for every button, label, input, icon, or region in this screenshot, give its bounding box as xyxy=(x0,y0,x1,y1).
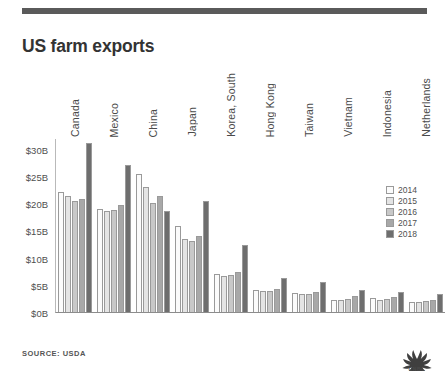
legend-item[interactable]: 2014 xyxy=(386,186,444,195)
bar-group xyxy=(214,139,249,312)
legend-label: 2018 xyxy=(398,230,417,239)
bar xyxy=(72,201,78,312)
legend-swatch xyxy=(386,197,394,205)
bar xyxy=(150,203,156,312)
legend-swatch xyxy=(386,230,394,238)
bar xyxy=(175,226,181,312)
bar xyxy=(203,201,209,312)
bar xyxy=(189,241,195,312)
bar xyxy=(65,196,71,312)
top-rule xyxy=(22,8,427,14)
legend-label: 2016 xyxy=(398,208,417,217)
y-axis-tick: $25B xyxy=(26,172,48,183)
bar xyxy=(299,294,305,312)
bar xyxy=(235,272,241,312)
source-note: SOURCE: USDA xyxy=(22,349,86,358)
bar xyxy=(118,205,124,312)
y-axis-tick: $0B xyxy=(31,308,48,319)
bar xyxy=(377,300,383,313)
legend-item[interactable]: 2015 xyxy=(386,197,444,206)
category-label: Canada xyxy=(69,99,81,137)
category-label: Hong Kong xyxy=(264,83,276,137)
bar xyxy=(164,211,170,312)
y-axis: $0B$5B$10B$15B$20B$25B$30B xyxy=(0,139,52,313)
y-axis-tick: $15B xyxy=(26,226,48,237)
bar xyxy=(437,294,443,312)
bar xyxy=(352,296,358,312)
bar xyxy=(136,174,142,312)
bar xyxy=(345,299,351,312)
bar-group xyxy=(58,139,93,312)
bar xyxy=(416,302,422,312)
legend-swatch xyxy=(386,208,394,216)
y-axis-tick: $5B xyxy=(31,280,48,291)
bar xyxy=(384,299,390,312)
bar xyxy=(182,239,188,312)
bar-group xyxy=(175,139,210,312)
bar xyxy=(97,209,103,312)
category-label: Taiwan xyxy=(303,103,315,137)
bar xyxy=(306,294,312,312)
category-label: Japan xyxy=(186,107,198,137)
bar xyxy=(157,196,163,312)
category-label: Indonesia xyxy=(381,90,393,137)
bar xyxy=(359,290,365,312)
bar xyxy=(370,298,376,312)
bar xyxy=(242,245,248,312)
bar xyxy=(143,187,149,312)
bar xyxy=(292,293,298,312)
legend-label: 2015 xyxy=(398,197,417,206)
legend-item[interactable]: 2017 xyxy=(386,219,444,228)
legend-label: 2017 xyxy=(398,219,417,228)
bar xyxy=(391,297,397,312)
bar-group xyxy=(136,139,171,312)
bar-group xyxy=(331,139,366,312)
bar xyxy=(111,210,117,312)
legend-swatch xyxy=(386,186,394,194)
bar xyxy=(125,165,131,312)
bar xyxy=(196,236,202,312)
bar xyxy=(267,291,273,312)
bar xyxy=(281,278,287,312)
bar xyxy=(86,143,92,312)
bar xyxy=(398,292,404,312)
bar-group xyxy=(292,139,327,312)
bar xyxy=(338,300,344,313)
chart-container: Annual trade volume (USD) $0B$5B$10B$15B… xyxy=(55,50,445,315)
bar-group xyxy=(97,139,132,312)
bar xyxy=(58,192,64,312)
bar xyxy=(423,301,429,312)
bar xyxy=(221,276,227,312)
bar xyxy=(320,282,326,312)
bar xyxy=(79,199,85,312)
bar xyxy=(409,302,415,312)
bar xyxy=(274,289,280,312)
legend-swatch xyxy=(386,219,394,227)
bar xyxy=(260,291,266,312)
legend-label: 2014 xyxy=(398,186,417,195)
y-axis-tick: $30B xyxy=(26,144,48,155)
bar xyxy=(214,274,220,312)
y-axis-tick: $10B xyxy=(26,253,48,264)
category-label: Mexico xyxy=(108,103,120,137)
legend-item[interactable]: 2016 xyxy=(386,208,444,217)
category-label-band: CanadaMexicoChinaJapanKorea, SouthHong K… xyxy=(55,50,445,139)
bar xyxy=(313,292,319,312)
bar xyxy=(331,300,337,312)
category-label: China xyxy=(147,109,159,137)
bar xyxy=(253,290,259,312)
bar xyxy=(104,211,110,312)
cnbc-wordmark: CNBC xyxy=(398,366,436,372)
legend: 20142015201620172018 xyxy=(386,186,444,238)
category-label: Netherlands xyxy=(420,78,432,137)
bar-group xyxy=(253,139,288,312)
category-label: Vietnam xyxy=(342,97,354,137)
bar xyxy=(228,275,234,312)
bar xyxy=(430,300,436,312)
category-label: Korea, South xyxy=(225,73,237,137)
y-axis-tick: $20B xyxy=(26,199,48,210)
legend-item[interactable]: 2018 xyxy=(386,230,444,239)
infographic-page: US farm exports Annual trade volume (USD… xyxy=(0,0,447,379)
